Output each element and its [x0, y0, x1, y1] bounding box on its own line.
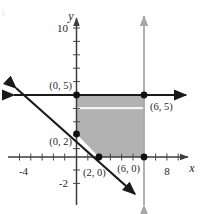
point-label-0-2: (0, 2) [49, 136, 72, 148]
point-0-2 [73, 131, 80, 138]
point-label-6-5: (6, 5) [150, 101, 173, 113]
point-6-0 [141, 154, 148, 161]
point-label-0-5: (0, 5) [49, 80, 72, 92]
point-6-5 [141, 92, 148, 99]
y-tick-label-10: 10 [57, 22, 69, 34]
x-axis-label: x [188, 161, 195, 175]
graph-figure: ) [0, 0, 206, 214]
point-label-2-0: (2, 0) [83, 167, 106, 179]
x-tick-label-8: 8 [164, 165, 170, 177]
y-axis-label: y [67, 9, 74, 23]
point-0-5 [73, 92, 80, 99]
x-tick-label-neg4: -4 [19, 165, 29, 177]
shaded-feasible-region [77, 95, 145, 157]
coordinate-plane-svg: -4 8 10 -2 y x (0, 5) (6, 5) (6, 0) (2, … [0, 0, 206, 214]
y-tick-label-neg2: -2 [59, 177, 68, 189]
point-2-0 [96, 154, 103, 161]
point-label-6-0: (6, 0) [117, 163, 140, 175]
corner-artifact: ) [1, 7, 4, 18]
